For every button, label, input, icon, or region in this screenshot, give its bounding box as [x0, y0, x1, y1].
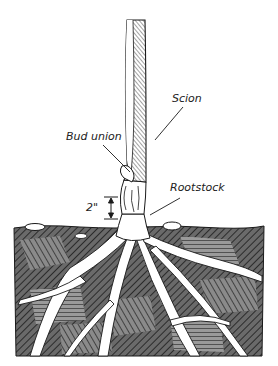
root-crown — [116, 214, 150, 241]
label-measurement: 2" — [86, 201, 98, 214]
grafted-tree-diagram — [0, 0, 278, 366]
label-bud-union: Bud union — [66, 130, 122, 143]
label-rootstock: Rootstock — [170, 181, 225, 194]
label-scion: Scion — [172, 92, 202, 105]
measurement-bracket — [104, 197, 118, 219]
